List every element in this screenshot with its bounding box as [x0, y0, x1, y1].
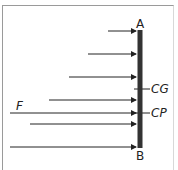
pressure-arrows	[10, 31, 136, 147]
label-cg: CG	[151, 83, 169, 95]
label-b: B	[136, 150, 144, 162]
plate-bar	[138, 30, 143, 148]
label-f: F	[16, 100, 23, 112]
label-cp: CP	[151, 107, 167, 119]
label-a: A	[136, 18, 144, 30]
